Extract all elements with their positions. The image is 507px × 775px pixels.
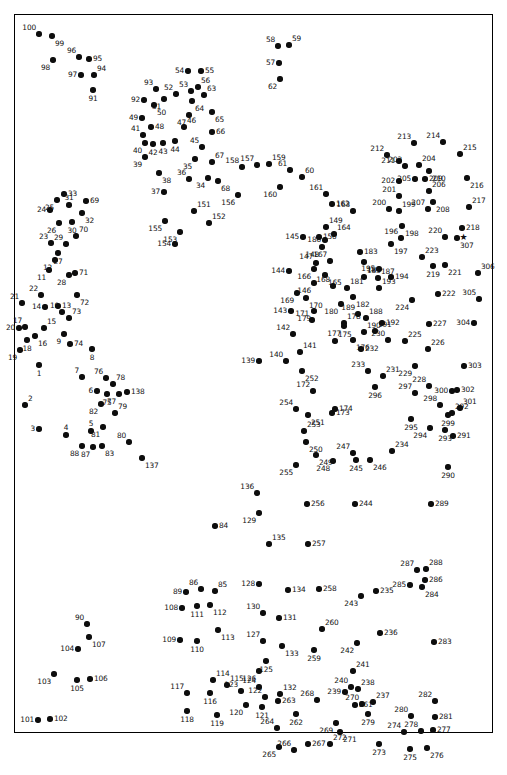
dot-point-104[interactable] (75, 646, 80, 651)
dot-point-51[interactable] (161, 96, 166, 101)
dot-point-31[interactable] (66, 202, 71, 207)
dot-point-167[interactable] (327, 258, 332, 263)
dot-point-124[interactable] (256, 684, 261, 689)
dot-point-134[interactable] (285, 587, 290, 592)
dot-point-80[interactable] (126, 439, 131, 444)
dot-point-39[interactable] (142, 154, 147, 159)
dot-point-69[interactable] (83, 198, 88, 203)
dot-point-154[interactable] (172, 241, 177, 246)
dot-point-261[interactable] (352, 702, 357, 707)
dot-point-62[interactable] (277, 76, 282, 81)
dot-point-302[interactable] (454, 387, 459, 392)
dot-point-287[interactable] (414, 567, 419, 572)
dot-point-190[interactable] (361, 329, 366, 334)
dot-point-230[interactable] (385, 337, 390, 342)
dot-point-296[interactable] (372, 384, 377, 389)
dot-point-211[interactable] (396, 158, 401, 163)
dot-point-125[interactable] (263, 658, 268, 663)
dot-point-58[interactable] (275, 43, 280, 48)
dot-point-98[interactable] (50, 57, 55, 62)
dot-point-53[interactable] (188, 88, 193, 93)
dot-point-289[interactable] (428, 501, 433, 506)
dot-point-267[interactable] (305, 741, 310, 746)
dot-point-67[interactable] (209, 159, 214, 164)
dot-point-159[interactable] (266, 161, 271, 166)
dot-point-7[interactable] (79, 374, 84, 379)
dot-point-217[interactable] (466, 204, 471, 209)
dot-point-137[interactable] (139, 455, 144, 460)
dot-point-22[interactable] (38, 292, 43, 297)
dot-point-222[interactable] (435, 291, 440, 296)
dot-point-169[interactable] (294, 290, 299, 295)
dot-point-110[interactable] (194, 638, 199, 643)
dot-point-79[interactable] (112, 410, 117, 415)
dot-point-305[interactable] (476, 296, 481, 301)
dot-point-288[interactable] (423, 566, 428, 571)
dot-point-84[interactable] (212, 523, 217, 528)
dot-point-28[interactable] (66, 272, 71, 277)
dot-point-153[interactable] (177, 229, 182, 234)
dot-point-19[interactable] (17, 347, 22, 352)
dot-point-21[interactable] (19, 300, 24, 305)
dot-point-68[interactable] (215, 178, 220, 183)
dot-point-178[interactable] (341, 320, 346, 325)
dot-point-259[interactable] (311, 647, 316, 652)
dot-point-160[interactable] (277, 184, 282, 189)
dot-point-141[interactable] (297, 349, 302, 354)
dot-point-1[interactable] (36, 362, 41, 367)
dot-point-275[interactable] (407, 746, 412, 751)
dot-point-66[interactable] (209, 129, 214, 134)
dot-point-135[interactable] (266, 541, 271, 546)
dot-point-257[interactable] (305, 541, 310, 546)
dot-point-262[interactable] (293, 711, 298, 716)
dot-point-96[interactable] (76, 54, 81, 59)
dot-point-138[interactable] (124, 389, 129, 394)
dot-point-128[interactable] (256, 581, 261, 586)
dot-point-276[interactable] (424, 745, 429, 750)
dot-point-116[interactable] (207, 690, 212, 695)
dot-point-113[interactable] (215, 627, 220, 632)
dot-point-25[interactable] (54, 197, 59, 202)
dot-point-235[interactable] (373, 588, 378, 593)
dot-point-273[interactable] (376, 741, 381, 746)
dot-point-194[interactable] (388, 274, 393, 279)
dot-point-119[interactable] (214, 712, 219, 717)
dot-point-299[interactable] (445, 412, 450, 417)
dot-point-130[interactable] (260, 610, 265, 615)
dot-point-47[interactable] (186, 112, 191, 117)
dot-point-220[interactable] (442, 234, 447, 239)
dot-point-56[interactable] (195, 84, 200, 89)
dot-point-18[interactable] (24, 337, 29, 342)
dot-point-86[interactable] (198, 586, 203, 591)
dot-point-223[interactable] (419, 254, 424, 259)
dot-point-281[interactable] (432, 714, 437, 719)
dot-point-70[interactable] (73, 233, 78, 238)
dot-point-107[interactable] (86, 634, 91, 639)
dot-point-270[interactable] (359, 701, 364, 706)
dot-point-33[interactable] (61, 191, 66, 196)
dot-point-216[interactable] (464, 175, 469, 180)
dot-point-286[interactable] (422, 577, 427, 582)
dot-point-233[interactable] (365, 368, 370, 373)
dot-point-280[interactable] (408, 713, 413, 718)
dot-point-226[interactable] (425, 346, 430, 351)
dot-point-219[interactable] (430, 263, 435, 268)
dot-point-100[interactable] (36, 31, 41, 36)
dot-point-238[interactable] (355, 686, 360, 691)
dot-point-268[interactable] (314, 697, 319, 702)
dot-point-147[interactable] (313, 260, 318, 265)
dot-point-243[interactable] (358, 593, 363, 598)
dot-point-48[interactable] (148, 124, 153, 129)
dot-point-149[interactable] (323, 224, 328, 229)
dot-point-246[interactable] (367, 457, 372, 462)
dot-point-174[interactable] (332, 406, 337, 411)
dot-point-32[interactable] (79, 210, 84, 215)
dot-point-224[interactable] (409, 297, 414, 302)
dot-point-214[interactable] (440, 139, 445, 144)
dot-point-162[interactable] (329, 201, 334, 206)
dot-point-201[interactable] (396, 193, 401, 198)
dot-point-87[interactable] (90, 444, 95, 449)
dot-point-207[interactable] (425, 206, 430, 211)
dot-point-105[interactable] (74, 677, 79, 682)
dot-point-278[interactable] (418, 728, 423, 733)
